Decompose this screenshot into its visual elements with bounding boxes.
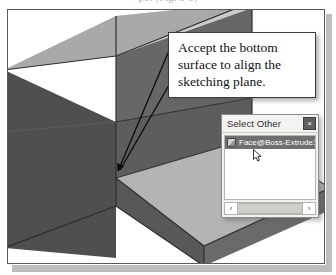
scrollbar-track[interactable] [237,203,303,214]
list-item[interactable]: Face@Boss-Extrude1@ [225,136,315,149]
entity-list[interactable]: Face@Boss-Extrude1@ [224,135,316,200]
scroll-right-arrow-icon[interactable]: › [303,203,315,214]
dialog-titlebar[interactable]: Select Other × [222,115,318,133]
instruction-text: Accept the bottom surface to align the s… [178,40,281,89]
dialog-title: Select Other [227,118,281,129]
list-item-label: Face@Boss-Extrude1@ [239,136,315,149]
figure-shadow-bottom [12,265,330,272]
face-icon [227,138,236,147]
figure-shadow-right [326,14,332,272]
instruction-callout: Accept the bottom surface to align the s… [168,32,316,98]
select-other-dialog[interactable]: Select Other × Face@Boss-Extrude1@ ‹ › [221,114,319,218]
scroll-left-arrow-icon[interactable]: ‹ [225,203,237,214]
close-icon[interactable]: × [303,117,316,130]
horizontal-scrollbar[interactable]: ‹ › [224,202,316,215]
figure-frame: Accept the bottom surface to align the s… [7,9,325,264]
figure-screenshot: pot (Fig. 3-5) [0,0,336,275]
scrollbar-thumb[interactable] [237,203,303,214]
cropped-caption-text: pot (Fig. 3-5) [0,0,336,9]
